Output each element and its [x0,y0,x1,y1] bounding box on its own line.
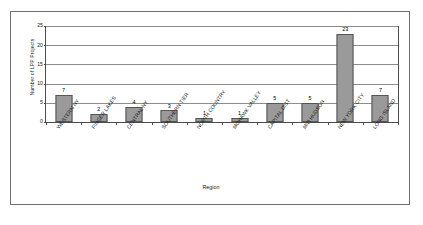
x-tickmark [292,122,293,125]
y-tickmark [44,26,46,27]
bar-value-label: 5 [273,96,276,101]
x-tickmark [398,122,399,125]
y-tick-label: 20 [37,43,43,48]
bar-value-label: 7 [379,88,382,93]
bar-slot: 3 [152,26,187,122]
x-tickmark [222,122,223,125]
x-tickmark [363,122,364,125]
x-tickmark [152,122,153,125]
bar-value-label: 7 [62,88,65,93]
y-tick-label: 15 [37,62,43,67]
bar-slot: 1 [187,26,222,122]
bar-value-label: 3 [168,104,171,109]
y-tickmark [44,103,46,104]
y-tick-label: 10 [37,81,43,86]
x-axis-title: Region [11,184,411,190]
y-tick-label: 0 [40,119,43,124]
x-tickmark [81,122,82,125]
y-tickmark [44,45,46,46]
y-tickmark [44,64,46,65]
y-tickmark [44,84,46,85]
chart-frame: Number of LPP Projects 0510152025 724311… [10,11,410,205]
bar-slot: 2 [81,26,116,122]
bar-slot: 4 [116,26,151,122]
bar-slot: 7 [363,26,398,122]
x-tickmark [328,122,329,125]
plot-area: 72431155237 [45,26,399,123]
bar-value-label: 4 [132,100,135,105]
y-axis-tick-labels: 0510152025 [29,26,43,122]
bar-slot: 5 [292,26,327,122]
x-tickmark [116,122,117,125]
bar-series: 72431155237 [46,26,398,122]
x-tickmark [187,122,188,125]
bar-slot: 23 [328,26,363,122]
bar-slot: 5 [257,26,292,122]
bar-value-label: 23 [342,27,348,32]
plot-wrapper: Number of LPP Projects 0510152025 724311… [11,12,409,204]
x-tickmark [257,122,258,125]
x-tickmark [46,122,47,125]
y-tick-label: 25 [37,23,43,28]
y-tick-label: 5 [40,100,43,105]
bar-value-label: 5 [308,96,311,101]
